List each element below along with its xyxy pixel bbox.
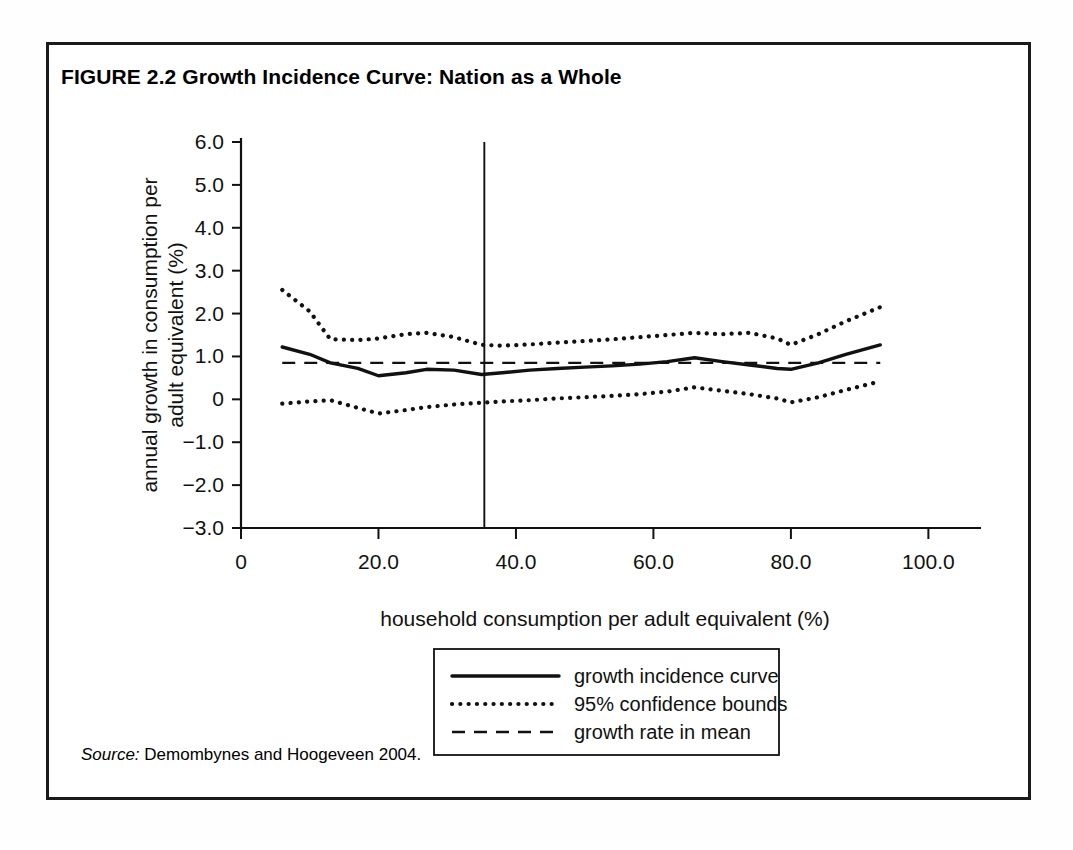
series-solid-line (282, 345, 880, 376)
source-note: Source: Demombynes and Hoogeveen 2004. (81, 745, 421, 765)
legend-label: growth incidence curve (574, 665, 779, 687)
x-tick-label: 80.0 (770, 550, 811, 573)
source-label: Source: (81, 745, 140, 764)
series-dotted-line (282, 290, 880, 346)
source-text: Demombynes and Hoogeveen 2004. (140, 745, 422, 764)
y-tick-label: 1.0 (195, 344, 224, 367)
y-tick-label: 3.0 (195, 259, 224, 282)
legend-label: growth rate in mean (574, 721, 751, 743)
y-tick-label: 4.0 (195, 216, 224, 239)
chart-plot-area: −3.0−2.0−1.001.02.03.04.05.06.0020.040.0… (49, 45, 1034, 803)
growth-incidence-chart: −3.0−2.0−1.001.02.03.04.05.06.0020.040.0… (49, 45, 1034, 803)
y-tick-label: 2.0 (195, 302, 224, 325)
legend-label: 95% confidence bounds (574, 693, 788, 715)
y-tick-label: 5.0 (195, 173, 224, 196)
x-tick-label: 60.0 (633, 550, 674, 573)
chart-root: −3.0−2.0−1.001.02.03.04.05.06.0020.040.0… (138, 130, 981, 755)
y-tick-label: 0 (212, 387, 224, 410)
x-axis-title: household consumption per adult equivale… (380, 607, 829, 630)
x-tick-label: 40.0 (496, 550, 537, 573)
y-tick-label: −2.0 (183, 473, 224, 496)
x-tick-label: 0 (235, 550, 247, 573)
x-tick-label: 100.0 (902, 550, 955, 573)
y-tick-label: −3.0 (183, 516, 224, 539)
y-tick-label: 6.0 (195, 130, 224, 153)
y-axis-title: annual growth in consumption peradult eq… (138, 177, 187, 492)
chart-legend: growth incidence curve95% confidence bou… (434, 649, 788, 755)
y-axis-title-line1: annual growth in consumption per (138, 177, 161, 492)
y-tick-label: −1.0 (183, 430, 224, 453)
figure-frame: FIGURE 2.2 Growth Incidence Curve: Natio… (46, 42, 1031, 800)
y-axis-title-line2: adult equivalent (%) (164, 242, 187, 428)
series-dotted-line (282, 381, 880, 413)
x-tick-label: 20.0 (358, 550, 399, 573)
